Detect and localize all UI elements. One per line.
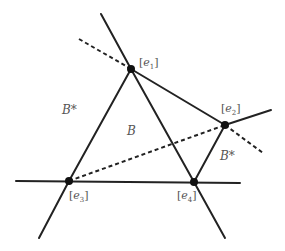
solid-line-e4-bottom: [194, 182, 225, 238]
region-label-b-star-left: B*: [62, 104, 77, 116]
line-arrangement: [0, 0, 285, 251]
diagram-canvas: [e1] [e2] [e3] [e4] B* B B*: [0, 0, 285, 251]
solid-line-e1-e4: [131, 69, 194, 182]
region-label-b-star-right: B*: [220, 150, 235, 162]
vertex-label-e4: [e4]: [177, 190, 197, 204]
solid-line-e1-e3: [69, 69, 131, 181]
solid-line-e3-bottom: [39, 181, 69, 238]
vertex-e3-dot: [65, 177, 73, 185]
solid-line-horizontal: [16, 181, 240, 183]
vertex-label-e3: [e3]: [69, 190, 89, 204]
vertex-e2-dot: [221, 121, 229, 129]
region-label-b-center: B: [127, 125, 136, 137]
vertex-e4-dot: [190, 178, 198, 186]
vertex-e1-dot: [127, 65, 135, 73]
dashed-line-e3-e2: [69, 125, 225, 181]
vertex-label-e1: [e1]: [139, 57, 159, 71]
vertex-label-e2: [e2]: [221, 103, 241, 117]
solid-line-e1-e2: [131, 69, 225, 125]
